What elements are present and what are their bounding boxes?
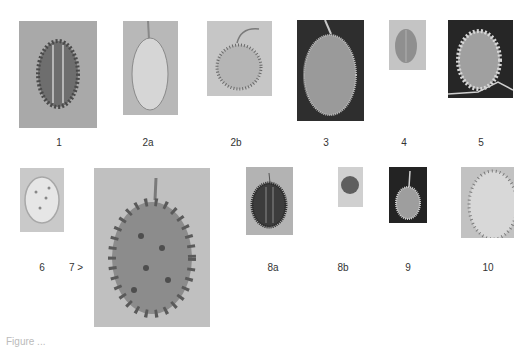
label-specimen-6: 6	[39, 262, 45, 273]
spiny-fruit-icon	[448, 20, 513, 98]
spotted-fruit-icon	[20, 168, 64, 232]
fuzzy-fruit-icon	[297, 20, 364, 121]
photo-specimen-7	[94, 168, 210, 327]
photo-specimen-5	[448, 20, 513, 98]
label-specimen-5: 5	[478, 137, 484, 148]
photo-specimen-3	[297, 20, 364, 121]
label-specimen-4: 4	[401, 137, 407, 148]
ribbed-spiny-fruit-icon	[246, 167, 293, 235]
photo-specimen-8a	[246, 167, 293, 235]
label-specimen-8a: 8a	[267, 262, 278, 273]
horned-melon-icon	[94, 168, 210, 327]
photo-specimen-4	[389, 20, 426, 70]
smooth-fruit-icon	[123, 21, 178, 115]
hairy-fruit-icon	[461, 167, 514, 238]
spiny-fruit-icon	[19, 21, 97, 128]
photo-specimen-6	[20, 168, 64, 232]
photo-specimen-9	[389, 167, 427, 223]
photo-specimen-2b	[207, 21, 272, 96]
label-specimen-2b: 2b	[230, 137, 241, 148]
label-specimen-2a: 2a	[142, 137, 153, 148]
figure-caption: Figure ...	[6, 336, 45, 347]
label-specimen-10: 10	[482, 262, 493, 273]
label-specimen-8b: 8b	[337, 262, 348, 273]
label-specimen-1: 1	[56, 137, 62, 148]
label-specimen-3: 3	[323, 137, 329, 148]
label-specimen-7: 7 >	[69, 262, 83, 273]
ribbed-fruit-icon	[389, 20, 426, 70]
round-fruit-icon	[338, 167, 363, 207]
photo-specimen-2a	[123, 21, 178, 115]
ribbed-fruit-icon	[389, 167, 427, 223]
photo-specimen-10	[461, 167, 514, 238]
photo-specimen-1	[19, 21, 97, 128]
photo-specimen-8b	[338, 167, 363, 207]
hairy-fruit-icon	[207, 21, 272, 96]
label-specimen-9: 9	[405, 262, 411, 273]
